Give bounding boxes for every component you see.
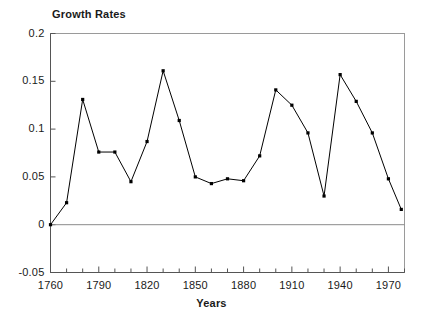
- x-tick-label: 1910: [267, 279, 317, 291]
- y-tick-label: 0.2: [0, 27, 45, 39]
- growth-rates-chart-figure: Growth Rates -0.0500.050.10.150.2 176017…: [0, 0, 423, 322]
- plot-canvas: [0, 0, 423, 322]
- y-tick-label: 0.15: [0, 74, 45, 86]
- x-tick-label: 1940: [315, 279, 365, 291]
- tick-marks: [51, 34, 405, 273]
- y-tick-label: 0: [0, 218, 45, 230]
- axis-frame: [51, 34, 405, 273]
- y-tick-label: 0.1: [0, 122, 45, 134]
- x-tick-label: 1970: [363, 279, 413, 291]
- data-line-growth-rates: [51, 71, 402, 225]
- x-tick-label: 1880: [219, 279, 269, 291]
- x-tick-label: 1760: [26, 279, 76, 291]
- data-point-markers: [49, 69, 403, 226]
- y-tick-label: -0.05: [0, 266, 45, 278]
- x-tick-label: 1820: [122, 279, 172, 291]
- y-tick-label: 0.05: [0, 170, 45, 182]
- x-tick-label: 1790: [74, 279, 124, 291]
- x-tick-label: 1850: [170, 279, 220, 291]
- x-axis-label: Years: [0, 297, 423, 309]
